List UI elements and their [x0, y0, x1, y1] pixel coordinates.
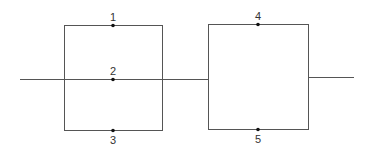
node-4: 4 — [255, 10, 261, 26]
node-dot — [256, 128, 260, 132]
node-label: 5 — [255, 133, 261, 145]
node-label: 2 — [110, 65, 116, 77]
node-dot — [111, 129, 115, 133]
node-label: 3 — [110, 134, 116, 146]
node-dot — [111, 78, 115, 82]
node-5: 5 — [255, 128, 261, 145]
node-label: 1 — [110, 11, 116, 23]
node-1: 1 — [110, 11, 116, 27]
node-2: 2 — [110, 65, 116, 81]
node-3: 3 — [110, 129, 116, 146]
node-label: 4 — [255, 10, 261, 22]
node-dot — [256, 23, 260, 27]
diagram-canvas: 1 2 3 4 5 — [0, 0, 369, 153]
node-dot — [111, 24, 115, 28]
right-block — [209, 25, 309, 130]
